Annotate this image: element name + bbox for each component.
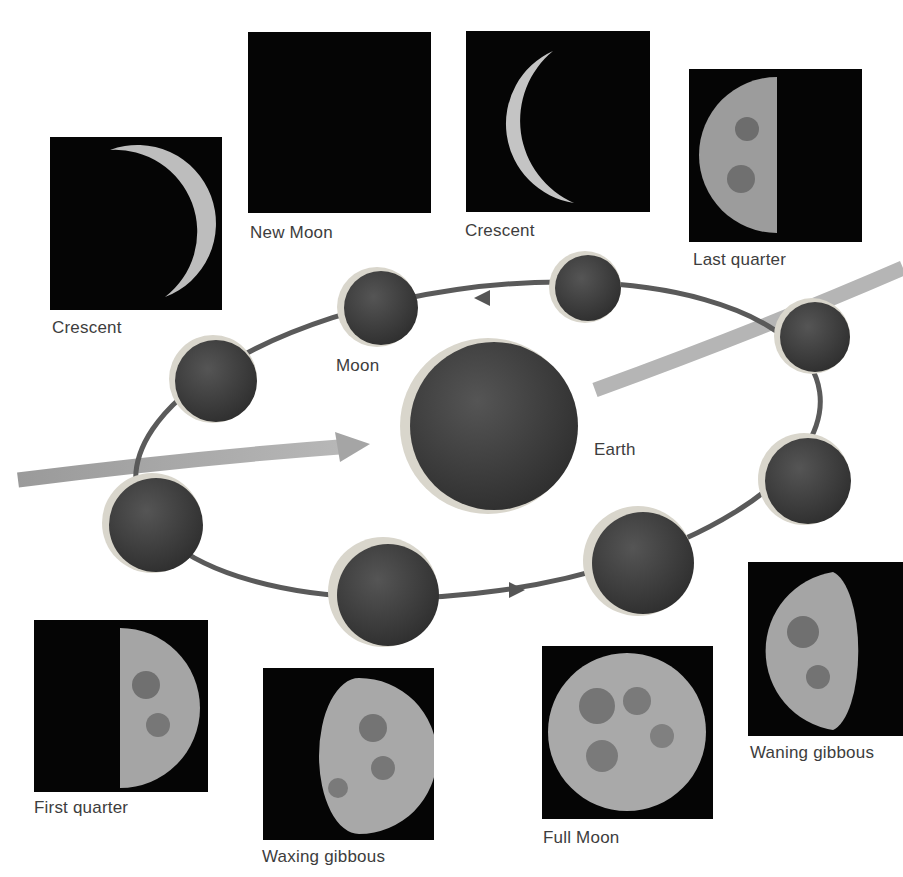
label-first-quarter: First quarter bbox=[34, 798, 128, 818]
moon-half-icon bbox=[689, 69, 862, 242]
label-last-quarter: Last quarter bbox=[693, 250, 786, 270]
photo-last-quarter bbox=[689, 69, 862, 242]
orbit-moon-waning-gibbous bbox=[758, 433, 851, 525]
label-new-moon: New Moon bbox=[250, 223, 333, 243]
moon-crescent-icon bbox=[466, 31, 650, 212]
moon-half-icon bbox=[34, 620, 208, 792]
orbit-moon-waning-crescent bbox=[549, 251, 621, 323]
label-crescent-waning: Crescent bbox=[465, 221, 535, 241]
orbit-direction-arrow-top bbox=[474, 290, 490, 306]
moon-gibbous-icon bbox=[263, 668, 434, 840]
orbit-moon-new bbox=[337, 267, 418, 347]
moon-new-icon bbox=[248, 32, 431, 213]
photo-crescent-waxing bbox=[50, 137, 222, 310]
label-waning-gibbous: Waning gibbous bbox=[750, 743, 874, 763]
label-moon: Moon bbox=[336, 356, 379, 376]
orbit-moon-full bbox=[583, 506, 694, 616]
moon-full-icon bbox=[542, 646, 713, 819]
sunlight-arrow bbox=[18, 432, 370, 480]
orbit-moon-first-quarter bbox=[102, 473, 203, 573]
photo-crescent-waning bbox=[466, 31, 650, 212]
orbit-moon-waxing-crescent bbox=[169, 335, 257, 423]
moon-crescent-icon bbox=[50, 137, 222, 310]
earth-sphere bbox=[400, 338, 578, 514]
photo-full-moon bbox=[542, 646, 713, 819]
photo-first-quarter bbox=[34, 620, 208, 792]
label-earth: Earth bbox=[594, 440, 636, 460]
label-full-moon: Full Moon bbox=[543, 828, 619, 848]
label-waxing-gibbous: Waxing gibbous bbox=[262, 847, 385, 867]
orbit-moon-waxing-gibbous bbox=[328, 537, 439, 647]
photo-waxing-gibbous bbox=[263, 668, 434, 840]
photo-waning-gibbous bbox=[748, 562, 903, 736]
moon-gibbous-icon bbox=[748, 562, 903, 736]
label-crescent-waxing: Crescent bbox=[52, 318, 122, 338]
photo-new-moon bbox=[248, 32, 431, 213]
orbit-moon-last-quarter bbox=[774, 298, 850, 374]
